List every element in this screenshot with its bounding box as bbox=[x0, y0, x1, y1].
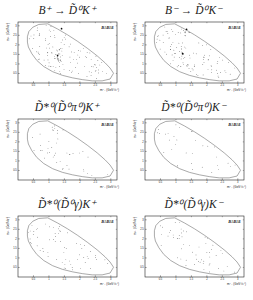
plot-frame bbox=[145, 119, 244, 180]
svg-text:0.5: 0.5 bbox=[13, 265, 17, 269]
svg-text:1: 1 bbox=[175, 277, 177, 281]
dalitz-boundary bbox=[27, 24, 113, 81]
svg-text:2.5: 2.5 bbox=[220, 180, 224, 184]
plot-title: D̃*⁰(D̃⁰γ)K⁺ bbox=[0, 196, 126, 213]
svg-text:2.5: 2.5 bbox=[220, 277, 224, 281]
plot-frame bbox=[145, 22, 244, 83]
svg-text:3: 3 bbox=[142, 24, 144, 28]
svg-text:1.5: 1.5 bbox=[13, 52, 17, 56]
svg-text:1: 1 bbox=[48, 180, 50, 184]
svg-text:2: 2 bbox=[206, 180, 208, 184]
plot-frame bbox=[18, 216, 117, 277]
svg-text:2.5: 2.5 bbox=[220, 83, 224, 87]
svg-text:1.5: 1.5 bbox=[189, 83, 193, 87]
plot-title: D̃*⁰(D̃⁰π⁰)K⁻ bbox=[126, 99, 253, 116]
y-axis-label: m²₋ (GeV²/c⁴) bbox=[132, 120, 136, 138]
scatter-points bbox=[32, 126, 108, 177]
dalitz-boundary bbox=[154, 218, 240, 275]
dalitz-figure: B⁺ → D̃⁰K⁺ 0.511.522.530.511.522.53m²₊ (… bbox=[0, 0, 253, 300]
subplot-b-minus-dk: B⁻ → D̃⁰K⁻ 0.511.522.530.511.522.53m²₊ (… bbox=[126, 2, 253, 98]
dalitz-plot-dstar-gamma-k-minus: 0.511.522.530.511.522.53m²₊ (GeV²/c⁴)m²₋… bbox=[131, 213, 249, 292]
x-axis-label: m²₊ (GeV²/c⁴) bbox=[227, 282, 246, 286]
svg-text:2.5: 2.5 bbox=[13, 130, 17, 134]
scatter-points bbox=[155, 27, 234, 78]
svg-text:1.5: 1.5 bbox=[63, 180, 67, 184]
scatter-points bbox=[28, 224, 108, 271]
plot-title: D̃*⁰(D̃⁰π⁰)K⁺ bbox=[0, 99, 126, 116]
plot-frame bbox=[145, 216, 244, 277]
y-axis-label: m²₋ (GeV²/c⁴) bbox=[6, 217, 10, 235]
svg-text:0.5: 0.5 bbox=[13, 168, 17, 172]
x-axis-label: m²₊ (GeV²/c⁴) bbox=[227, 88, 246, 92]
dalitz-boundary bbox=[154, 121, 240, 178]
svg-text:1: 1 bbox=[142, 159, 144, 163]
svg-text:2: 2 bbox=[79, 83, 81, 87]
svg-text:1: 1 bbox=[48, 83, 50, 87]
svg-text:3: 3 bbox=[142, 121, 144, 125]
plot-title: B⁺ → D̃⁰K⁺ bbox=[0, 2, 126, 19]
svg-text:0.5: 0.5 bbox=[140, 71, 144, 75]
svg-text:3: 3 bbox=[15, 218, 17, 222]
svg-text:3: 3 bbox=[15, 121, 17, 125]
scatter-points bbox=[157, 125, 235, 173]
figure-row-1: B⁺ → D̃⁰K⁺ 0.511.522.530.511.522.53m²₊ (… bbox=[0, 2, 253, 98]
svg-text:2: 2 bbox=[15, 237, 17, 241]
svg-text:2.5: 2.5 bbox=[140, 33, 144, 37]
svg-text:1: 1 bbox=[175, 180, 177, 184]
svg-text:2.5: 2.5 bbox=[94, 180, 98, 184]
svg-text:1.5: 1.5 bbox=[189, 180, 193, 184]
svg-text:0.5: 0.5 bbox=[158, 180, 162, 184]
subplot-dstar-pi0-k-minus: D̃*⁰(D̃⁰π⁰)K⁻ 0.511.522.530.511.522.53m²… bbox=[126, 99, 253, 195]
svg-text:1: 1 bbox=[15, 256, 17, 260]
svg-text:1.5: 1.5 bbox=[140, 149, 144, 153]
svg-text:1.5: 1.5 bbox=[189, 277, 193, 281]
svg-text:0.5: 0.5 bbox=[32, 277, 36, 281]
plot-title: D̃*⁰(D̃⁰γ)K⁻ bbox=[126, 196, 253, 213]
svg-text:0.5: 0.5 bbox=[13, 71, 17, 75]
scatter-points bbox=[29, 25, 107, 79]
svg-text:0.5: 0.5 bbox=[32, 180, 36, 184]
svg-text:0.5: 0.5 bbox=[32, 83, 36, 87]
svg-text:2.5: 2.5 bbox=[140, 227, 144, 231]
svg-text:0.5: 0.5 bbox=[140, 168, 144, 172]
plot-title: B⁻ → D̃⁰K⁻ bbox=[126, 2, 253, 19]
svg-text:2: 2 bbox=[142, 237, 144, 241]
svg-text:2: 2 bbox=[206, 277, 208, 281]
dalitz-plot-dstar-pi0-k-minus: 0.511.522.530.511.522.53m²₊ (GeV²/c⁴)m²₋… bbox=[131, 116, 249, 195]
svg-text:1.5: 1.5 bbox=[63, 277, 67, 281]
svg-text:1: 1 bbox=[15, 62, 17, 66]
svg-text:3: 3 bbox=[15, 24, 17, 28]
dalitz-boundary bbox=[27, 218, 113, 275]
subplot-b-plus-dk: B⁺ → D̃⁰K⁺ 0.511.522.530.511.522.53m²₊ (… bbox=[0, 2, 126, 98]
svg-text:3: 3 bbox=[142, 218, 144, 222]
figure-row-3: D̃*⁰(D̃⁰γ)K⁺ 0.511.522.530.511.522.53m²₊… bbox=[0, 196, 253, 292]
svg-text:2: 2 bbox=[142, 140, 144, 144]
svg-text:0.5: 0.5 bbox=[158, 83, 162, 87]
x-axis-label: m²₊ (GeV²/c⁴) bbox=[100, 185, 119, 189]
svg-text:1.5: 1.5 bbox=[140, 52, 144, 56]
scatter-points bbox=[159, 222, 234, 273]
svg-text:1.5: 1.5 bbox=[13, 246, 17, 250]
figure-row-2: D̃*⁰(D̃⁰π⁰)K⁺ 0.511.522.530.511.522.53m²… bbox=[0, 99, 253, 195]
svg-text:1.5: 1.5 bbox=[140, 246, 144, 250]
x-axis-label: m²₊ (GeV²/c⁴) bbox=[100, 282, 119, 286]
y-axis-label: m²₋ (GeV²/c⁴) bbox=[132, 217, 136, 235]
svg-text:2.5: 2.5 bbox=[13, 227, 17, 231]
svg-text:1: 1 bbox=[142, 256, 144, 260]
svg-text:1.5: 1.5 bbox=[13, 149, 17, 153]
svg-text:2: 2 bbox=[206, 83, 208, 87]
y-axis-label: m²₋ (GeV²/c⁴) bbox=[6, 23, 10, 41]
babar-logo: BaBar bbox=[227, 122, 240, 127]
dalitz-plot-dstar-pi0-k-plus: 0.511.522.530.511.522.53m²₊ (GeV²/c⁴)m²₋… bbox=[4, 116, 122, 195]
svg-text:2.5: 2.5 bbox=[13, 33, 17, 37]
dalitz-plot-b-minus-dk: 0.511.522.530.511.522.53m²₊ (GeV²/c⁴)m²₋… bbox=[131, 19, 249, 98]
svg-text:0.5: 0.5 bbox=[158, 277, 162, 281]
svg-text:1: 1 bbox=[175, 83, 177, 87]
svg-text:2: 2 bbox=[79, 277, 81, 281]
babar-logo: BaBar bbox=[100, 219, 113, 224]
svg-text:1: 1 bbox=[48, 277, 50, 281]
svg-text:1: 1 bbox=[15, 159, 17, 163]
x-axis-label: m²₊ (GeV²/c⁴) bbox=[227, 185, 246, 189]
svg-text:2: 2 bbox=[15, 43, 17, 47]
dalitz-boundary bbox=[27, 121, 113, 178]
